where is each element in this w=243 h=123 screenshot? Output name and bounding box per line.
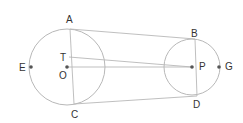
geometry-diagram: A C E T O B D P G <box>0 0 243 123</box>
label-e: E <box>19 62 26 73</box>
point-o-marker <box>65 65 69 69</box>
label-c: C <box>71 109 78 120</box>
point-p-marker <box>190 65 194 69</box>
segment-ab <box>70 29 195 39</box>
label-a: A <box>66 14 73 25</box>
label-b: B <box>191 28 198 39</box>
label-o: O <box>59 70 67 81</box>
segment-bd <box>195 39 197 96</box>
label-d: D <box>193 99 200 110</box>
segment-cd <box>74 96 197 104</box>
label-p: P <box>199 61 206 72</box>
point-e-marker <box>29 65 33 69</box>
point-g-marker <box>217 65 221 69</box>
label-t: T <box>60 52 66 63</box>
label-g: G <box>225 61 233 72</box>
segment-tp <box>69 57 192 67</box>
segment-ac <box>70 29 74 104</box>
